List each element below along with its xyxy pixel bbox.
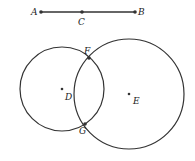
diagram-svg: ACB DE FG <box>0 0 195 161</box>
label-g: G <box>79 126 86 136</box>
label-e: E <box>132 96 140 106</box>
point-c <box>80 10 84 14</box>
point-b <box>133 10 137 14</box>
label-f: F <box>83 46 91 56</box>
point-a <box>39 10 43 14</box>
label-a: A <box>30 7 38 17</box>
center-d <box>61 88 64 91</box>
intersection-f <box>87 56 91 60</box>
label-d: D <box>64 92 72 102</box>
geometry-diagram: ACB DE FG <box>0 0 195 161</box>
label-b: B <box>137 7 145 17</box>
center-e <box>128 93 131 96</box>
label-c: C <box>78 17 85 27</box>
